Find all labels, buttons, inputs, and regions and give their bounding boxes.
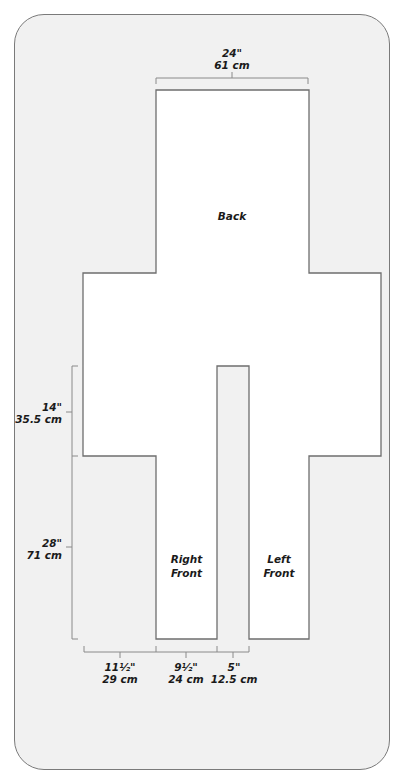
front-gap-metric: 12.5 cm xyxy=(208,673,260,685)
sleeve-height-metric: 35.5 cm xyxy=(14,413,62,425)
bottom-dimension-line xyxy=(84,646,249,658)
left-front-label-line1: Left xyxy=(249,553,309,566)
top-dimension-line xyxy=(156,72,308,84)
left-front-label-line2: Front xyxy=(249,567,309,580)
garment-schematic xyxy=(0,0,405,776)
left-dimension-line xyxy=(66,366,78,639)
body-length-metric: 71 cm xyxy=(14,549,62,561)
back-label: Back xyxy=(182,210,282,223)
sleeve-height-imperial: 14" xyxy=(14,401,62,413)
front-gap-imperial: 5" xyxy=(208,661,260,673)
back-piece-shape xyxy=(83,90,381,639)
top-width-imperial: 24" xyxy=(202,47,262,59)
sleeve-length-imperial: 11½" xyxy=(92,661,148,673)
front-width-metric: 24 cm xyxy=(160,673,212,685)
front-width-imperial: 9½" xyxy=(160,661,212,673)
top-width-metric: 61 cm xyxy=(202,59,262,71)
body-length-imperial: 28" xyxy=(14,537,62,549)
sleeve-length-metric: 29 cm xyxy=(92,673,148,685)
right-front-label-line1: Right xyxy=(156,553,217,566)
right-front-label-line2: Front xyxy=(156,567,217,580)
